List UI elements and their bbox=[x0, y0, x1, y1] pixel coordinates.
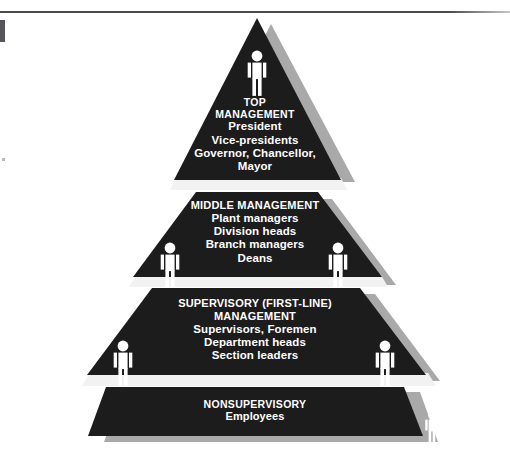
diagram-stage: TOP MANAGEMENT President Vice-presidents… bbox=[0, 0, 510, 450]
tier-4-body bbox=[88, 387, 423, 436]
management-pyramid-graphic bbox=[0, 0, 510, 450]
tier-1-body bbox=[174, 18, 341, 180]
tier-nonsupervisory[interactable] bbox=[69, 387, 438, 444]
tier-middle-management[interactable] bbox=[133, 192, 382, 288]
tier-top-management[interactable] bbox=[174, 18, 341, 180]
